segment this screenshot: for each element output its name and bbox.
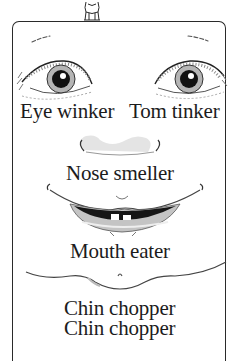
label-chin-chopper-2: Chin chopper <box>64 318 175 339</box>
label-tom-tinker: Tom tinker <box>129 101 219 122</box>
label-nose-smeller: Nose smeller <box>66 163 174 184</box>
nose-icon <box>80 136 160 156</box>
left-eye-icon <box>17 61 92 99</box>
chin-icon <box>26 262 226 289</box>
label-mouth-eater: Mouth eater <box>70 241 170 262</box>
right-eye-icon <box>155 61 227 99</box>
label-eye-winker: Eye winker <box>20 101 114 122</box>
mouth-icon <box>47 184 202 236</box>
eyebrow-right-icon <box>188 36 208 41</box>
eyebrow-left-icon <box>32 36 50 42</box>
